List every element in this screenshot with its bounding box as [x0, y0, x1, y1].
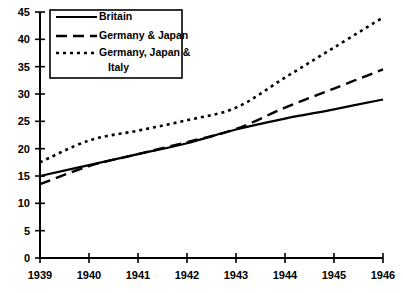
x-axis-tick-labels: 19391940194119421943194419451946	[28, 269, 395, 281]
legend-label: Italy	[108, 61, 129, 73]
x-tick-label: 1940	[77, 269, 101, 281]
y-tick-label: 40	[18, 33, 30, 45]
y-tick-label: 45	[18, 6, 30, 18]
y-axis-tick-labels: 051015202530354045	[18, 6, 30, 264]
x-tick-label: 1945	[322, 269, 346, 281]
y-tick-label: 20	[18, 143, 30, 155]
x-tick-label: 1942	[175, 269, 199, 281]
y-tick-label: 15	[18, 170, 30, 182]
x-tick-label: 1943	[224, 269, 248, 281]
chart-figure: 051015202530354045 193919401941194219431…	[0, 0, 403, 293]
legend-label: Britain	[99, 10, 132, 22]
x-tick-label: 1939	[28, 269, 52, 281]
legend-label: Germany & Japan	[99, 29, 188, 41]
series-line	[40, 69, 383, 184]
x-tick-label: 1946	[371, 269, 395, 281]
y-tick-label: 35	[18, 61, 30, 73]
legend-label: Germany, Japan &	[99, 46, 191, 58]
y-tick-label: 30	[18, 88, 30, 100]
x-tick-label: 1941	[126, 269, 150, 281]
chart-legend: BritainGermany & JapanGermany, Japan &It…	[50, 10, 191, 78]
y-tick-label: 10	[18, 197, 30, 209]
x-tick-label: 1944	[273, 269, 298, 281]
line-chart: 051015202530354045 193919401941194219431…	[0, 0, 403, 293]
y-tick-label: 5	[24, 225, 30, 237]
y-tick-label: 25	[18, 115, 30, 127]
y-tick-label: 0	[24, 252, 30, 264]
